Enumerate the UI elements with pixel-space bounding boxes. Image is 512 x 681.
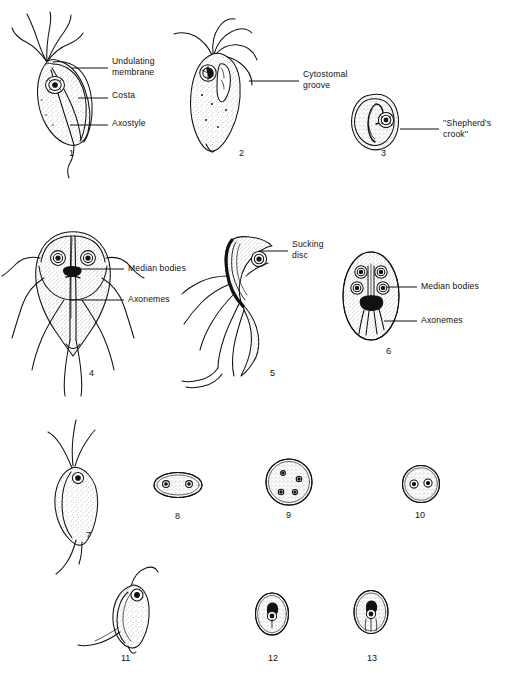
label-sucking-disc: Sucking disc bbox=[292, 239, 324, 260]
label-median-bodies-6: Median bodies bbox=[421, 281, 479, 292]
figure-number-13: 13 bbox=[367, 653, 377, 663]
figure-9-round-cyst bbox=[266, 459, 312, 505]
figure-number-8: 8 bbox=[175, 511, 180, 521]
label-axostyle: Axostyle bbox=[112, 118, 146, 129]
figure-13-small-cyst-striated bbox=[354, 591, 388, 634]
figure-6-giardia-cyst bbox=[343, 252, 399, 340]
label-costa: Costa bbox=[112, 90, 135, 101]
label-median-bodies-4: Median bodies bbox=[128, 263, 186, 274]
figure-number-1: 1 bbox=[69, 148, 74, 158]
figure-7-small-flagellate bbox=[48, 420, 98, 574]
figure-number-10: 10 bbox=[415, 510, 425, 520]
figure-10-round-cyst bbox=[403, 466, 440, 503]
figure-number-2: 2 bbox=[239, 148, 244, 158]
figure-12-small-cyst bbox=[256, 593, 289, 635]
label-shepherds-crook: ''Shepherd's crook'' bbox=[443, 118, 491, 139]
figure-8-oval-cyst bbox=[154, 473, 202, 498]
figure-number-11: 11 bbox=[121, 653, 130, 663]
label-axonemes-6: Axonemes bbox=[421, 315, 463, 326]
figure-number-6: 6 bbox=[386, 346, 391, 356]
label-undulating-membrane: Undulating membrane bbox=[112, 56, 155, 77]
figure-number-7: 7 bbox=[86, 530, 91, 540]
label-cytostomal-groove: Cytostomal groove bbox=[303, 69, 347, 90]
figure-3-chilomastix-cyst bbox=[352, 94, 399, 149]
plate-drawing bbox=[0, 0, 512, 681]
figure-11-chilomastix-small bbox=[78, 567, 158, 653]
figure-1-trichomonas bbox=[12, 12, 92, 178]
figure-number-12: 12 bbox=[268, 653, 278, 663]
figure-number-9: 9 bbox=[286, 510, 291, 520]
figure-5-giardia-lateral bbox=[182, 237, 272, 388]
figure-number-5: 5 bbox=[270, 368, 275, 378]
illustration-plate: Undulating membrane Costa Axostyle Cytos… bbox=[0, 0, 512, 681]
figure-number-3: 3 bbox=[381, 148, 386, 158]
figure-4-giardia-frontal bbox=[2, 232, 144, 396]
figure-2-chilomastix-trophozoite bbox=[174, 19, 257, 152]
label-axonemes-4: Axonemes bbox=[128, 294, 170, 305]
figure-number-4: 4 bbox=[89, 368, 94, 378]
